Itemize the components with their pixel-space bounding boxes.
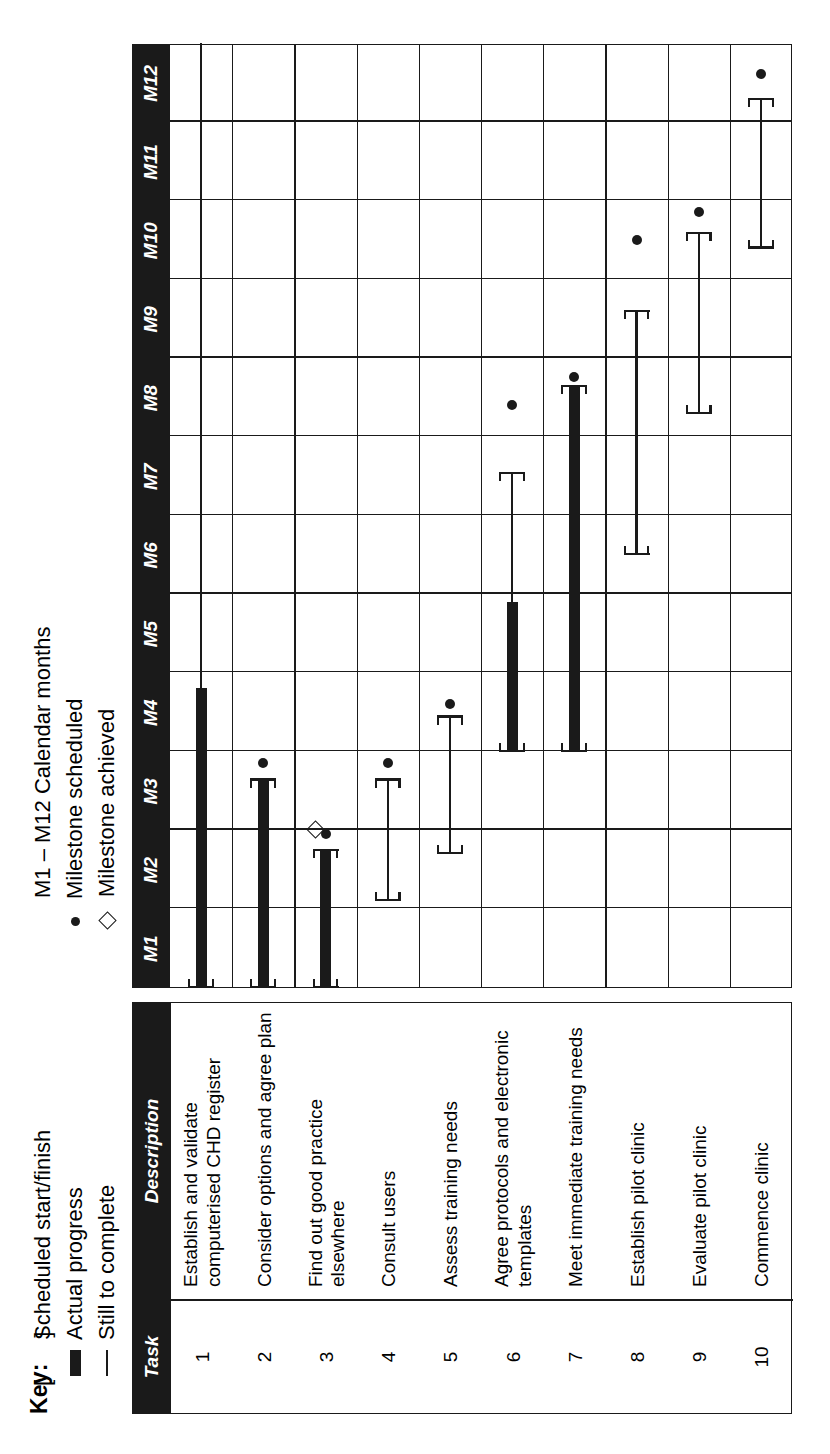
scheduled-finish-bracket — [624, 310, 650, 319]
gantt-plot — [170, 44, 792, 988]
task-description-cell: Assess training needs — [420, 1009, 483, 1301]
month-label-m3: M3 — [132, 752, 170, 831]
scheduled-start-bracket — [686, 405, 712, 414]
scheduled-start-bracket — [437, 845, 463, 854]
task-description-cell: Find out good practice elsewhere — [295, 1009, 358, 1301]
month-label-m5: M5 — [132, 595, 170, 674]
task-number-cell: 10 — [731, 1301, 794, 1413]
scheduled-finish-bracket — [561, 385, 587, 394]
column-header-description: Description — [133, 1001, 171, 1301]
grid-line-horizontal — [730, 45, 731, 987]
scheduled-start-bracket — [313, 979, 339, 988]
scheduled-start-bracket — [561, 743, 587, 752]
table-row: 4Consult users — [358, 1001, 421, 1413]
task-bar-still-to-complete — [449, 716, 451, 854]
key-entry-still-to-complete: Still to complete — [94, 1185, 122, 1386]
table-row: 10Commence clinic — [731, 1001, 794, 1413]
grid-line-horizontal — [543, 45, 544, 987]
month-label-m12: M12 — [132, 44, 170, 123]
table-row: 6Agree protocols and electronic template… — [482, 1001, 545, 1413]
table-row: 3Find out good practice elsewhere — [295, 1001, 358, 1413]
task-bar-still-to-complete — [698, 232, 700, 413]
scheduled-finish-bracket — [375, 779, 401, 788]
grid-line-horizontal — [357, 45, 358, 987]
key-entry-milestone-achieved: Milestone achieved — [94, 709, 122, 944]
task-number-cell: 3 — [295, 1301, 358, 1413]
task-table: Task number Description 1Establish and v… — [132, 1002, 792, 1414]
milestone-scheduled-dot — [569, 372, 579, 382]
scheduled-start-bracket — [499, 743, 525, 752]
key-entry-scheduled-start-finish: [ ]Scheduled start/finish — [30, 1130, 58, 1386]
table-row: 8Establish pilot clinic — [606, 1001, 669, 1413]
milestone-scheduled-dot — [694, 207, 704, 217]
milestone-scheduled-dot-icon — [71, 917, 80, 926]
task-number-cell: 2 — [233, 1301, 296, 1413]
key-label: Actual progress — [62, 1187, 88, 1340]
month-header-bar: M1M2M3M4M5M6M7M8M9M10M11M12 — [132, 44, 170, 988]
task-number-cell: 7 — [544, 1301, 607, 1413]
key-entry-milestone-scheduled: Milestone scheduled — [62, 698, 90, 944]
thick-bar-icon — [70, 1350, 81, 1376]
grid-line-horizontal — [232, 45, 233, 987]
key-entry-calendar-months: M1 – M12 Calendar months — [30, 627, 58, 944]
scheduled-start-bracket — [250, 979, 276, 988]
month-label-m7: M7 — [132, 437, 170, 516]
month-label-m11: M11 — [132, 123, 170, 202]
grid-line-horizontal — [605, 45, 606, 987]
task-number-cell: 5 — [420, 1301, 483, 1413]
milestone-scheduled-dot — [756, 69, 766, 79]
task-bar-actual-progress — [569, 385, 580, 751]
scheduled-finish-bracket — [250, 779, 276, 788]
key-entry-actual-progress: Actual progress — [62, 1187, 90, 1386]
task-bar-still-to-complete — [760, 98, 762, 247]
task-number-cell: 8 — [606, 1301, 669, 1413]
scheduled-start-bracket — [375, 892, 401, 901]
scheduled-finish-bracket — [686, 232, 712, 241]
scheduled-finish-bracket — [748, 98, 774, 107]
month-label-m10: M10 — [132, 201, 170, 280]
scheduled-finish-bracket — [499, 472, 525, 481]
task-bar-still-to-complete — [387, 779, 389, 901]
key-label: M1 – M12 Calendar months — [30, 627, 56, 898]
task-number-cell: 1 — [171, 1301, 234, 1413]
month-label-m2: M2 — [132, 831, 170, 910]
task-description-cell: Establish and validate computerised CHD … — [171, 1009, 234, 1301]
grid-line-horizontal — [668, 45, 669, 987]
task-description-cell: Agree protocols and electronic templates — [482, 1009, 545, 1301]
task-description-cell: Meet immediate training needs — [544, 1009, 607, 1301]
task-bar-actual-progress — [320, 849, 331, 987]
task-bar-still-to-complete — [200, 43, 202, 688]
column-header-task-number: Task number — [133, 1301, 171, 1413]
scheduled-start-bracket — [748, 240, 774, 249]
task-description-cell: Establish pilot clinic — [606, 1009, 669, 1301]
grid-line-horizontal — [294, 45, 295, 987]
key-label: Milestone achieved — [94, 709, 120, 897]
gantt-chart-sheet: Key: [ ]Scheduled start/finish Actual pr… — [0, 0, 830, 1454]
scheduled-finish-bracket — [437, 716, 463, 725]
task-description-cell: Consider options and agree plan — [233, 1009, 296, 1301]
month-label-m6: M6 — [132, 516, 170, 595]
task-description-cell: Consult users — [358, 1009, 421, 1301]
milestone-scheduled-dot — [258, 758, 268, 768]
rotated-page-wrapper: Key: [ ]Scheduled start/finish Actual pr… — [0, 0, 830, 1454]
milestone-scheduled-dot — [445, 699, 455, 709]
scheduled-finish-bracket — [313, 849, 339, 858]
spacer-icon — [30, 898, 56, 944]
month-label-m4: M4 — [132, 673, 170, 752]
milestone-scheduled-dot — [632, 235, 642, 245]
table-row: 7Meet immediate training needs — [544, 1001, 607, 1413]
task-number-cell: 9 — [669, 1301, 732, 1413]
milestone-scheduled-dot — [383, 758, 393, 768]
task-number-cell: 4 — [358, 1301, 421, 1413]
key-label: Milestone scheduled — [62, 698, 88, 899]
task-description-cell: Commence clinic — [731, 1009, 794, 1301]
task-bar-actual-progress — [258, 779, 269, 987]
grid-line-horizontal — [481, 45, 482, 987]
task-bar-actual-progress — [196, 688, 207, 987]
scheduled-start-bracket — [188, 979, 214, 988]
key-label: Still to complete — [94, 1185, 120, 1340]
milestone-scheduled-dot — [507, 400, 517, 410]
task-bar-still-to-complete — [511, 472, 513, 602]
table-row: 5Assess training needs — [420, 1001, 483, 1413]
table-header-row: Task number Description — [133, 1003, 171, 1413]
